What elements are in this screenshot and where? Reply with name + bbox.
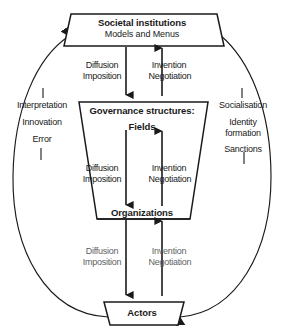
societal-institutions-box (64, 14, 224, 46)
actors-box (104, 302, 184, 325)
governance-structures-box (79, 102, 208, 219)
institutional-cycle-diagram: Societal institutions Models and Menus G… (0, 0, 284, 334)
diagram-canvas (0, 0, 284, 334)
